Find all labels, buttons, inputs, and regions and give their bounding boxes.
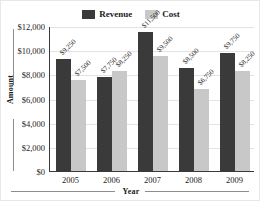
- legend-swatch-revenue: [82, 10, 95, 19]
- x-tick-label: 2008: [185, 175, 202, 185]
- plot-area: $0$2,000$4,000$6,000$8,000$10,000$12,000…: [49, 27, 254, 172]
- bar-value-label: $9,500: [155, 35, 174, 54]
- legend-item-revenue: Revenue: [82, 10, 132, 19]
- x-tick-label: 2009: [226, 175, 243, 185]
- bar-chart: Revenue Cost Amount $0$2,000$4,000$6,000…: [0, 0, 260, 201]
- y-tick-label: $10,000: [17, 46, 45, 56]
- bar-value-label: $9,750: [222, 32, 241, 51]
- y-axis-title: Amount: [6, 64, 15, 116]
- bar-rect: [220, 53, 235, 171]
- y-axis-rule-lower: [13, 119, 14, 171]
- bar-rect: [179, 68, 194, 171]
- bar-value-label: $6,750: [196, 68, 215, 87]
- bar-rect: [56, 59, 71, 171]
- bar-group: $8,500$6,7502008: [173, 27, 214, 171]
- bar-value-label: $7,500: [73, 59, 92, 78]
- bar-value-label: $9,250: [58, 38, 77, 57]
- bar-group: $11,500$9,5002007: [132, 27, 173, 171]
- chart-legend: Revenue Cost: [1, 8, 260, 20]
- bar-group: $7,750$8,2502006: [91, 27, 132, 171]
- legend-label-cost: Cost: [162, 10, 180, 19]
- y-tick-label: $0: [37, 167, 46, 177]
- bar-rect: [153, 56, 168, 171]
- legend-label-revenue: Revenue: [99, 10, 132, 19]
- x-tick-label: 2005: [62, 175, 79, 185]
- plot-wrapper: $0$2,000$4,000$6,000$8,000$10,000$12,000…: [49, 27, 254, 172]
- x-axis-rule-right: [145, 191, 249, 192]
- y-tick-label: $8,000: [22, 70, 45, 80]
- y-tick-label: $4,000: [22, 119, 45, 129]
- bar-rect: [97, 77, 112, 171]
- bar-value-label: $8,250: [114, 50, 133, 69]
- y-tick-label: $6,000: [22, 95, 45, 105]
- y-tick-label: $12,000: [17, 22, 45, 32]
- bars-layer: $9,250$7,5002005$7,750$8,2502006$11,500$…: [50, 27, 254, 171]
- bar-rect: [194, 89, 209, 171]
- bar-group: $9,750$8,2502009: [214, 27, 255, 171]
- bar-value-label: $8,250: [237, 50, 256, 69]
- bar-rect: [138, 32, 153, 171]
- x-tick-label: 2007: [144, 175, 161, 185]
- bar-rect: [235, 71, 250, 171]
- bar-rect: [112, 71, 127, 171]
- bar-group: $9,250$7,5002005: [50, 27, 91, 171]
- y-tick-label: $2,000: [22, 143, 45, 153]
- x-tick-label: 2006: [103, 175, 120, 185]
- bar-value-label: $8,500: [181, 47, 200, 66]
- bar-rect: [71, 80, 86, 171]
